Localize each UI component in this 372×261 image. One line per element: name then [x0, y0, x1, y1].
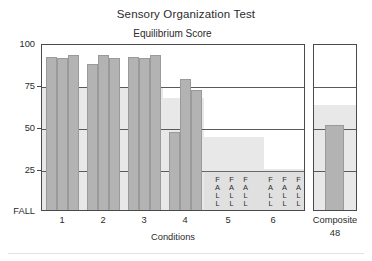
plot-area: FALL FALL FALL FALL FALL FALL [41, 44, 305, 211]
y-tick-label-50: 50 [1, 123, 35, 133]
x-tick-label-6: 6 [258, 215, 288, 225]
bar-c4-t2 [180, 79, 191, 211]
composite-label: Composite [305, 215, 365, 225]
chart-subtitle: Equilibrium Score [40, 28, 305, 39]
y-tick-label-25: 25 [1, 165, 35, 175]
fall-label-c5-t2: FALL [227, 176, 236, 208]
y-tick-label-75: 75 [1, 81, 35, 91]
fall-label-c6-t3: FALL [294, 176, 303, 208]
x-tick-label-1: 1 [47, 215, 77, 225]
bar-c1-t2 [57, 58, 68, 211]
x-tick-label-5: 5 [213, 215, 243, 225]
x-tick-label-4: 4 [170, 215, 200, 225]
x-tick-label-3: 3 [129, 215, 159, 225]
gridline-50 [42, 129, 304, 130]
composite-value: 48 [305, 228, 365, 238]
fall-label-c6-t1: FALL [266, 176, 275, 208]
bar-c3-t1 [128, 57, 139, 211]
x-tick-label-2: 2 [88, 215, 118, 225]
bar-c2-t2 [98, 55, 109, 211]
y-tick-label-fall: FALL [0, 206, 35, 216]
fall-label-c5-t1: FALL [213, 176, 222, 208]
bar-c4-t1 [169, 132, 180, 211]
composite-gridline-75 [314, 87, 356, 88]
composite-bar [325, 125, 344, 211]
footer-divider [8, 253, 364, 254]
bar-c3-t3 [150, 55, 161, 211]
bar-c1-t3 [68, 55, 79, 211]
bar-c3-t2 [139, 58, 150, 211]
gridline-75 [42, 87, 304, 88]
y-tick-label-100: 100 [1, 39, 35, 49]
sensory-organization-test-chart: Sensory Organization Test Equilibrium Sc… [0, 0, 372, 261]
fall-label-c6-t2: FALL [280, 176, 289, 208]
page-title: Sensory Organization Test [0, 8, 372, 20]
bar-c2-t1 [87, 64, 98, 211]
x-axis-title: Conditions [41, 232, 305, 242]
bar-c1-t1 [46, 57, 57, 211]
bar-c2-t3 [109, 58, 120, 211]
fall-label-c5-t3: FALL [241, 176, 250, 208]
composite-plot-area [313, 44, 357, 211]
bar-c4-t3 [191, 90, 202, 211]
